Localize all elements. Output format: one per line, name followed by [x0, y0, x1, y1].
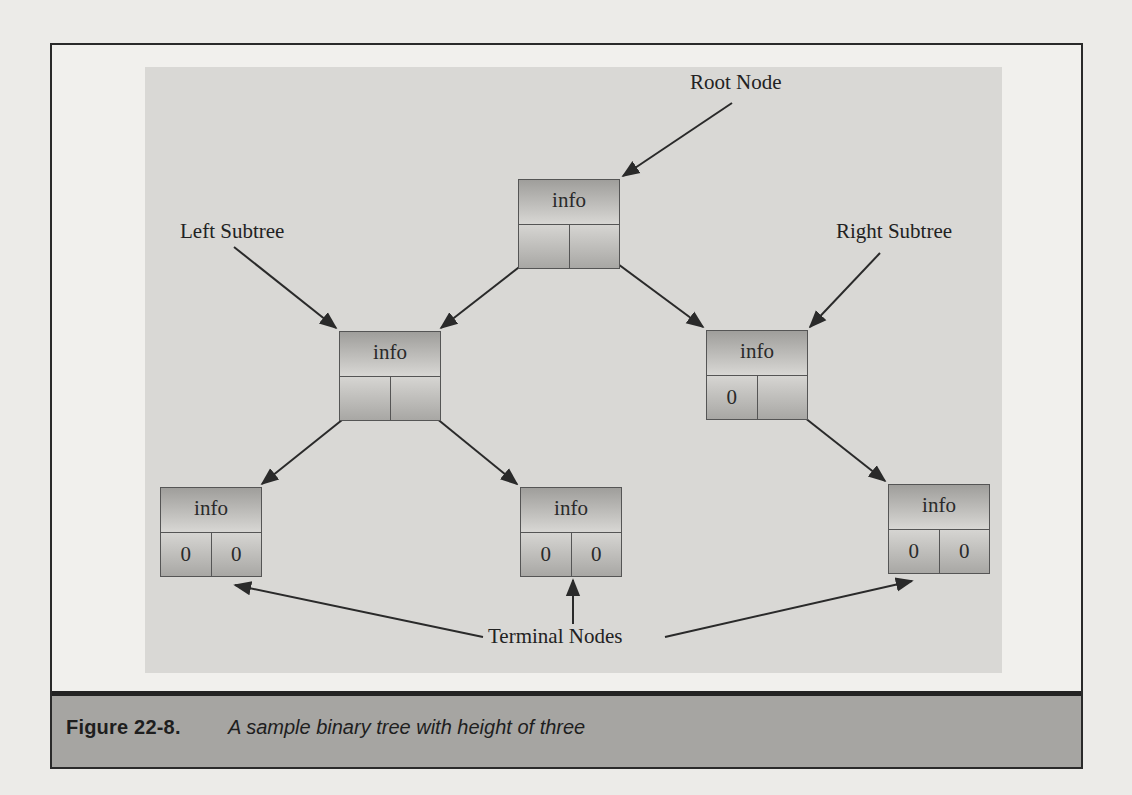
node-info: info — [521, 488, 621, 533]
node-left-pointer: 0 — [161, 533, 211, 576]
left-subtree-label-arrow — [234, 247, 336, 328]
terminal-arrow-left — [235, 585, 483, 637]
root-node-label: Root Node — [690, 70, 782, 95]
node-info: info — [340, 332, 440, 377]
terminal-nodes-label: Terminal Nodes — [488, 624, 622, 649]
node-left-pointer — [519, 225, 569, 268]
node-info: info — [519, 180, 619, 225]
node-left-pointer: 0 — [521, 533, 571, 576]
node-left-pointer — [340, 377, 390, 420]
right-subtree-label-arrow — [810, 253, 880, 327]
tree-node-right-right: info 0 0 — [888, 484, 990, 574]
terminal-arrow-right — [665, 581, 912, 637]
node-right-pointer — [390, 377, 441, 420]
node-left-pointer: 0 — [707, 376, 757, 419]
node-info: info — [707, 331, 807, 376]
tree-node-right: info 0 — [706, 330, 808, 420]
tree-node-left-right: info 0 0 — [520, 487, 622, 577]
node-left-pointer: 0 — [889, 530, 939, 573]
root-label-arrow — [623, 103, 732, 176]
node-right-pointer — [569, 225, 620, 268]
tree-node-left: info — [339, 331, 441, 421]
node-info: info — [161, 488, 261, 533]
node-right-pointer — [757, 376, 808, 419]
node-right-pointer: 0 — [211, 533, 262, 576]
node-right-pointer: 0 — [571, 533, 622, 576]
left-subtree-label: Left Subtree — [180, 219, 284, 244]
tree-node-left-left: info 0 0 — [160, 487, 262, 577]
tree-node-root: info — [518, 179, 620, 269]
node-info: info — [889, 485, 989, 530]
tree-edges — [0, 0, 1132, 795]
node-right-pointer: 0 — [939, 530, 990, 573]
right-subtree-label: Right Subtree — [836, 219, 952, 244]
